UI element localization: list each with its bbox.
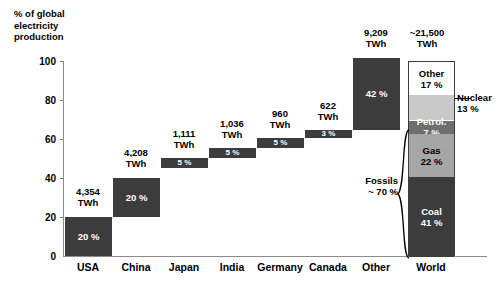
x-axis-label-usa: USA (62, 261, 114, 273)
world-segment-other[interactable]: Other 17 % (409, 62, 454, 96)
y-axis-title: % of global electricity production (14, 8, 106, 43)
bar-china[interactable]: 20 % (113, 178, 160, 217)
annotation-nuclear: Nuclear 13 % (457, 92, 500, 114)
fossils-brace-icon (396, 128, 412, 260)
y-tick-label-20: 20 (30, 212, 56, 223)
x-axis-label-germany: Germany (252, 261, 308, 273)
bar-percent-label-germany: 5 % (257, 138, 304, 148)
bar-twh-label-japan: 1,111 TWh (158, 128, 210, 150)
bar-world-stack: Other 17 % Petrol. 7 % Gas 22 % Coal 41 … (408, 61, 455, 256)
bar-twh-label-other: 9,209 TWh (350, 27, 402, 49)
world-segment-gas[interactable]: Gas 22 % (409, 134, 454, 177)
bar-twh-label-china: 4,208 TWh (110, 147, 162, 169)
x-axis-label-japan: Japan (158, 261, 210, 273)
bar-germany[interactable]: 5 % (257, 138, 304, 148)
bar-percent-label-canada: 3 % (305, 129, 352, 139)
world-segment-coal[interactable]: Coal 41 % (409, 177, 454, 257)
y-tick-label-80: 80 (30, 95, 56, 106)
bar-percent-label-india: 5 % (209, 148, 256, 158)
bar-india[interactable]: 5 % (209, 148, 256, 158)
y-axis-line (63, 61, 64, 257)
bar-percent-label-china: 20 % (113, 193, 160, 203)
x-axis-label-china: China (110, 261, 162, 273)
y-tick-label-100: 100 (30, 56, 56, 67)
x-axis-label-india: India (206, 261, 258, 273)
bar-usa[interactable]: 20 % (65, 217, 112, 256)
bar-other[interactable]: 42 % (353, 58, 400, 130)
x-axis-label-other: Other (350, 261, 402, 273)
bar-percent-label-usa: 20 % (65, 232, 112, 242)
bar-canada[interactable]: 3 % (305, 130, 352, 138)
bar-twh-label-germany: 960 TWh (254, 108, 306, 130)
nuclear-leader-line (455, 98, 471, 99)
y-tick-label-60: 60 (30, 134, 56, 145)
bar-percent-label-japan: 5 % (161, 158, 208, 168)
bar-twh-label-canada: 622 TWh (302, 100, 354, 122)
bar-percent-label-other: 42 % (353, 89, 400, 99)
world-segment-label-other: Other 17 % (409, 68, 454, 90)
x-axis-label-canada: Canada (302, 261, 354, 273)
bar-twh-label-usa: 4,354 TWh (62, 186, 114, 208)
y-tick-label-0: 0 (30, 251, 56, 262)
bar-twh-label-world: ~21,500 TWh (398, 27, 456, 49)
y-tick-label-40: 40 (30, 173, 56, 184)
world-segment-label-coal: Coal 41 % (409, 206, 454, 228)
bar-japan[interactable]: 5 % (161, 158, 208, 168)
world-segment-petrol[interactable]: Petrol. 7 % (409, 121, 454, 135)
x-axis-label-world: World (405, 261, 457, 273)
bar-twh-label-india: 1,036 TWh (206, 118, 258, 140)
world-segment-label-gas: Gas 22 % (409, 145, 454, 167)
chart-canvas: % of global electricity production 100 8… (0, 0, 500, 283)
annotation-fossils: Fossils ~ 70 % (342, 175, 398, 197)
